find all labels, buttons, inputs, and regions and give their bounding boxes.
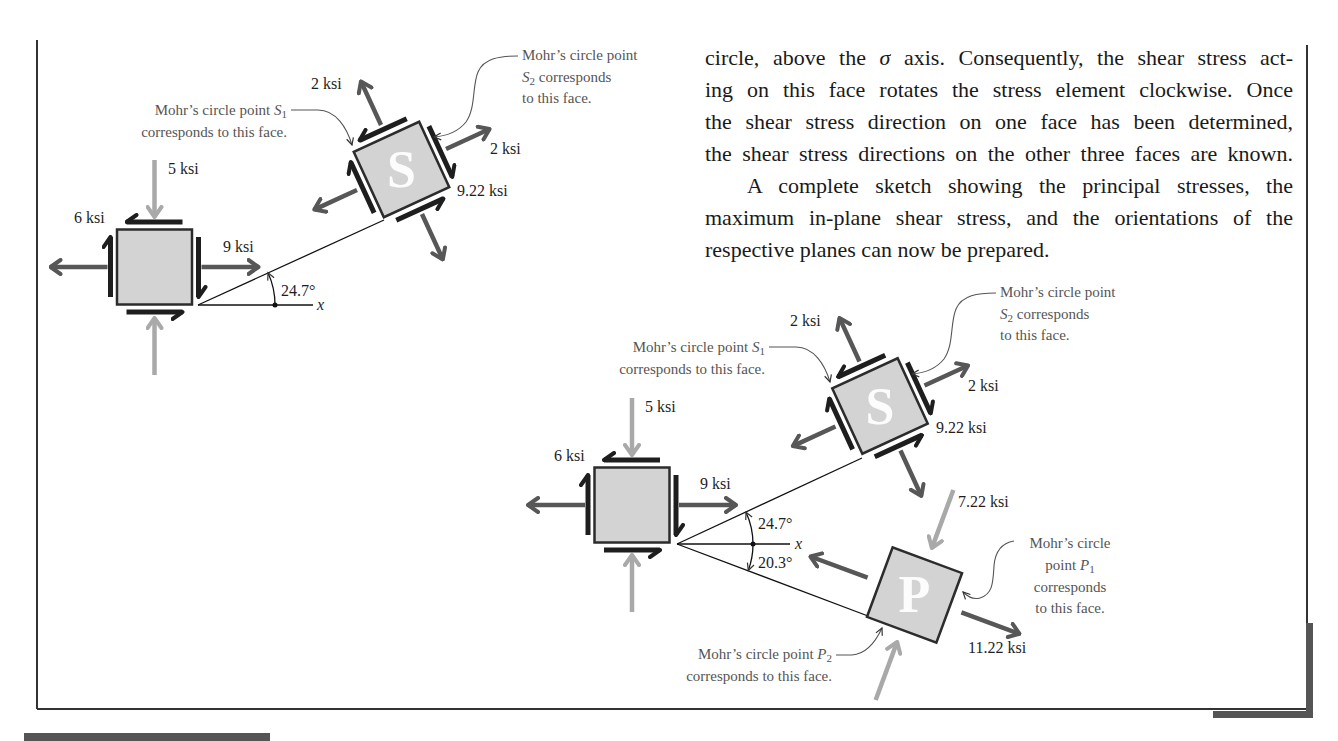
figure-top: 24.7° x 5 ksi 6 ksi 9 ksi [51,41,639,375]
element-letter: S [387,141,416,198]
leader-arrow-icon [963,541,1014,599]
callout-p2: Mohr’s circle point P2 corresponds to th… [686,628,882,684]
shear-stress-label: 9.22 ksi [457,182,508,199]
leader-arrow-icon [912,293,996,374]
original-stress-element [51,160,259,375]
callout-s2-line3: to this face. [1000,327,1070,343]
tension-arrow-right-icon [961,612,1019,634]
sigma-x-label: 9 ksi [223,238,254,255]
point-symbol: P [816,646,826,662]
normal-arrow-lower-icon [900,451,921,496]
compression-arrow-lower-icon [876,642,898,700]
normal-stress-right-label: 2 ksi [968,377,999,394]
callout-s1-line2: corresponds to this face. [619,361,765,377]
angle-arc-lower-icon [748,544,753,570]
normal-stress-upper-label: 2 ksi [311,75,342,92]
x-axis-label: x [794,535,802,552]
tau-xy-label: 6 ksi [554,447,585,464]
element-square [117,230,192,305]
leader-arrow-icon [434,56,518,137]
sigma-y-label: 5 ksi [168,160,199,177]
callout-p1-line3: corresponds [1034,579,1107,595]
point-symbol: P [1079,557,1089,573]
normal-arrow-upper-icon [839,318,859,362]
normal-arrow-right-icon [925,365,969,385]
shear-stress-label: 9.22 ksi [936,419,987,436]
page-frame [24,40,1313,741]
arc-dot [273,303,278,308]
footer-gray-bar [24,733,270,741]
callout-s1: Mohr’s circle point S1 corresponds to th… [619,339,830,382]
x-axis-label: x [316,296,324,313]
callout-s2-line2: S2 corresponds [522,69,611,87]
callout-p1-line4: to this face. [1035,600,1105,616]
angle-label: 24.7° [281,282,315,299]
callout-s1: Mohr’s circle point S1 corresponds to th… [141,102,352,145]
point-subscript: 1 [1089,563,1095,575]
callout-s2-line3: to this face. [522,90,592,106]
frame-shadow-right [1306,623,1313,718]
callout-s2-line1: Mohr’s circle point [522,47,638,63]
angle-s-label: 24.7° [758,515,792,532]
original-stress-element [528,398,736,612]
leader-arrow-icon [291,110,352,145]
figure-canvas: 24.7° x 5 ksi 6 ksi 9 ksi [0,0,1338,741]
angle-p-label: 20.3° [758,554,792,571]
angle-arc-icon [268,273,275,305]
tau-xy-label: 6 ksi [74,209,105,226]
normal-stress-right-label: 2 ksi [490,140,521,157]
sigma-y-label: 5 ksi [645,398,676,415]
textbook-page: circle, above the σ axis. Consequently, … [0,0,1338,741]
callout-text: point [1045,557,1080,573]
callout-s2: Mohr’s circle point S2 corresponds to th… [912,284,1116,374]
point-subscript: 2 [827,652,833,664]
element-letter: S [866,378,895,435]
callout-text: Mohr’s circle point [633,339,752,355]
callout-s2-line1: Mohr’s circle point [1000,284,1116,300]
normal-stress-upper-label: 2 ksi [790,312,821,329]
compression-arrow-upper-icon [932,490,954,548]
callout-s2-line2: S2 corresponds [1000,306,1089,324]
arc-dot [751,542,756,547]
callout-text: corresponds [1013,306,1089,322]
point-subscript: 1 [760,345,766,357]
element-square [595,468,670,543]
callout-p1: Mohr’s circle point P1 corresponds to th… [963,535,1111,616]
callout-s1-line1: Mohr’s circle point S1 [155,102,287,120]
tension-arrow-left-icon [810,556,867,577]
sigma-x-label: 9 ksi [700,475,731,492]
point-subscript: 1 [282,108,288,120]
callout-p2-line2: corresponds to this face. [686,668,832,684]
callout-s2: Mohr’s circle point S2 corresponds to th… [434,47,638,137]
callout-s1-line2: corresponds to this face. [141,124,287,140]
callout-p1-line1: Mohr’s circle [1030,535,1111,551]
normal-arrow-left-icon [793,426,836,446]
callout-text: Mohr’s circle point [155,102,274,118]
normal-arrow-lower-icon [422,214,443,259]
callout-text: corresponds [535,69,611,85]
frame-shadow-bottom [1213,711,1313,718]
sigma-min-label: 7.22 ksi [958,493,1009,510]
callout-p2-line1: Mohr’s circle point P2 [698,646,832,664]
leader-arrow-icon [769,347,830,382]
angle-arc-upper-icon [746,512,753,544]
normal-arrow-left-icon [314,190,357,210]
element-letter: P [899,566,931,623]
callout-text: Mohr’s circle point [698,646,817,662]
sigma-max-label: 11.22 ksi [968,639,1027,656]
callout-s1-line1: Mohr’s circle point S1 [633,339,765,357]
leader-arrow-icon [836,628,882,655]
figure-bottom: 24.7° 20.3° x 5 ksi 6 ksi 9 ksi [528,277,1116,739]
callout-p1-line2: point P1 [1045,557,1094,575]
normal-arrow-upper-icon [361,81,381,125]
